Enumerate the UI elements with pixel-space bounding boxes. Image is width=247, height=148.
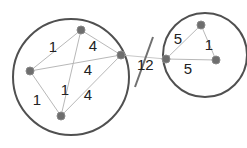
edge-A-D [61,30,81,116]
node-A [77,26,85,34]
node-B [26,67,34,75]
edge-weight-B-D: 1 [33,91,41,108]
edge-weight-A-B: 1 [49,38,57,55]
edge-weight-labels: 14411451512 [33,30,213,108]
node-D [57,112,65,120]
edge-weight-F-G: 1 [205,36,213,53]
edge-A-C [81,30,121,55]
cluster-left-circle [13,19,129,135]
cluster-boundaries [13,13,247,135]
node-G [212,56,220,64]
edge-weight-B-C: 4 [84,61,92,78]
node-E [162,55,170,63]
edge-weight-E-F: 5 [174,30,182,47]
graph-diagram: 14411451512 [0,0,247,148]
bridge-weight-label: 12 [137,56,154,73]
edge-weight-A-C: 4 [89,37,97,54]
node-F [197,21,205,29]
node-C [117,51,125,59]
edge-weight-C-D: 4 [84,86,92,103]
edge-weight-A-D: 1 [61,81,69,98]
edge-weight-E-G: 5 [184,60,192,77]
